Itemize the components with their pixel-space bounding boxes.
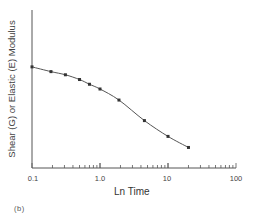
data-point-marker bbox=[99, 88, 102, 91]
data-point-marker bbox=[88, 83, 91, 86]
x-axis-label: Ln Time bbox=[114, 186, 150, 197]
data-point-marker bbox=[78, 78, 81, 81]
data-point-marker bbox=[117, 99, 120, 102]
data-point-marker bbox=[64, 73, 67, 76]
data-point-marker bbox=[143, 119, 146, 122]
x-tick-label: 1.0 bbox=[95, 174, 105, 183]
data-point-marker bbox=[167, 135, 170, 138]
x-tick-label: 100 bbox=[230, 174, 243, 183]
data-series bbox=[31, 65, 190, 149]
panel-label: (b) bbox=[14, 204, 25, 213]
y-axis-label-text: Shear (G) or Elastic (E) Modulus bbox=[6, 20, 17, 157]
data-point-marker bbox=[49, 70, 52, 73]
x-tick-label: 0.1 bbox=[28, 174, 38, 183]
y-axis-label: Shear (G) or Elastic (E) Modulus bbox=[4, 10, 18, 168]
axes bbox=[32, 10, 236, 168]
data-point-marker bbox=[31, 65, 34, 68]
data-point-marker bbox=[187, 146, 190, 149]
x-tick-label: 10 bbox=[163, 174, 171, 183]
